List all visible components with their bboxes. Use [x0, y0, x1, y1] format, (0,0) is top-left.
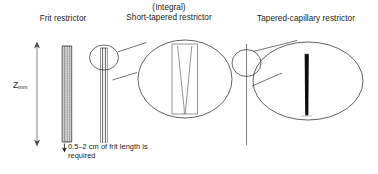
title-short-tapered-restrictor: (Integral) Short-tapered restrictor	[108, 3, 230, 23]
short-tapered-callout-circle	[90, 45, 119, 70]
short-tapered-magnified-ellipse	[138, 40, 232, 118]
title-short-tapered-line-1: (Integral)	[108, 3, 230, 13]
z-axis-subscript: mm	[18, 84, 27, 90]
restrictor-types-figure: Frit restrictor (Integral) Short-tapered…	[0, 0, 378, 174]
z-axis-arrow	[34, 42, 40, 147]
figure-drawing-canvas	[0, 0, 378, 174]
title-frit-restrictor: Frit restrictor	[24, 14, 102, 24]
short-tapered-magnified-detail	[172, 44, 198, 114]
short-tapered-capillary	[101, 48, 108, 143]
title-short-tapered-line-2: Short-tapered restrictor	[108, 13, 230, 23]
frit-note-arrow-icon	[62, 144, 67, 153]
tapered-capillary-magnified-detail	[302, 54, 313, 116]
frit-length-note: 0.5–2 cm of frit length is required	[68, 142, 172, 161]
frit-restrictor-tube	[62, 46, 71, 142]
title-tapered-capillary-restrictor: Tapered-capillary restrictor	[236, 14, 376, 24]
z-axis-label: Zmm	[13, 80, 28, 92]
